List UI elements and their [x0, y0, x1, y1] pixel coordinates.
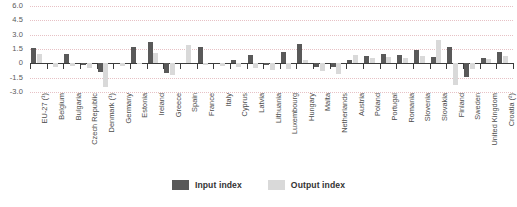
- x-axis-label: France: [208, 93, 216, 171]
- x-axis-label: Estonia: [141, 93, 149, 171]
- bar-input-index: [164, 63, 169, 73]
- bar-output-index: [137, 63, 142, 64]
- bar-output-index: [370, 58, 375, 64]
- bar-output-index: [436, 40, 441, 63]
- bar-input-index: [297, 44, 302, 63]
- bar-output-index: [53, 63, 58, 67]
- x-axis-tick-mark: [130, 63, 131, 69]
- bar-input-index: [497, 52, 502, 63]
- x-axis-tick-mark: [280, 63, 281, 69]
- x-axis-label: Belgium: [58, 93, 66, 171]
- bar-group: [97, 6, 114, 92]
- x-axis-tick-mark: [180, 63, 181, 69]
- bar-output-index: [236, 63, 241, 67]
- bar-input-index: [314, 63, 319, 67]
- x-axis-label: Ireland: [158, 93, 166, 171]
- x-axis-tick-mark: [330, 63, 331, 69]
- x-axis-label: Bulgaria: [75, 93, 83, 171]
- bar-input-index: [264, 63, 269, 65]
- y-axis-tick-label: 6.0: [0, 2, 23, 10]
- x-axis-tick-mark: [113, 63, 114, 69]
- x-axis-label: Croatia (²): [508, 93, 516, 171]
- x-axis-tick-mark: [296, 63, 297, 69]
- bar-group: [396, 6, 413, 92]
- bar-group: [363, 6, 380, 92]
- bar-group: [346, 6, 363, 92]
- x-axis-tick-mark: [346, 63, 347, 69]
- bar-chart: 6.04.53.01.50-1.5-3.0 EU-27 (¹)BelgiumBu…: [0, 0, 517, 207]
- y-axis-tick-label: 1.5: [0, 45, 23, 53]
- bar-group: [30, 6, 47, 92]
- bar-group: [430, 6, 447, 92]
- bar-output-index: [336, 63, 341, 74]
- bar-output-index: [503, 56, 508, 64]
- x-axis-tick-mark: [47, 63, 48, 69]
- bar-input-index: [397, 55, 402, 64]
- bar-input-index: [464, 63, 469, 76]
- x-axis-label: Portugal: [391, 93, 399, 171]
- x-axis-tick-mark: [363, 63, 364, 69]
- bar-output-index: [186, 45, 191, 63]
- x-axis-label: Sweden: [474, 93, 482, 171]
- y-axis-tick-label: -3.0: [0, 88, 23, 96]
- x-axis-tick-mark: [147, 63, 148, 69]
- bar-group: [480, 6, 497, 92]
- x-axis-label: Latvia: [258, 93, 266, 171]
- bar-output-index: [303, 60, 308, 63]
- x-axis-label: Spain: [191, 93, 199, 171]
- bar-output-index: [386, 57, 391, 64]
- x-axis-tick-mark: [480, 63, 481, 69]
- bar-group: [63, 6, 80, 92]
- chart-legend: Input index Output index: [0, 180, 517, 190]
- x-axis-tick-mark: [513, 63, 514, 69]
- bar-input-index: [447, 47, 452, 63]
- bar-group: [496, 6, 513, 92]
- bar-group: [463, 6, 480, 92]
- x-axis-label: Slovakia: [441, 93, 449, 171]
- bar-group: [163, 6, 180, 92]
- bar-group: [147, 6, 164, 92]
- x-axis-tick-mark: [80, 63, 81, 69]
- x-axis-label: Hungary: [308, 93, 316, 171]
- bar-group: [113, 6, 130, 92]
- x-axis-label: Netherlands: [341, 93, 349, 171]
- legend-item-output: Output index: [268, 180, 345, 190]
- bar-group: [130, 6, 147, 92]
- x-axis-tick-mark: [413, 63, 414, 69]
- bar-output-index: [70, 63, 75, 66]
- bar-output-index: [220, 63, 225, 66]
- x-axis-label: Romania: [408, 93, 416, 171]
- bar-group: [380, 6, 397, 92]
- bar-input-index: [98, 63, 103, 72]
- x-axis-label: Finland: [458, 93, 466, 171]
- x-axis-label: Malta: [324, 93, 332, 171]
- legend-swatch-input-icon: [172, 180, 189, 190]
- bar-input-index: [248, 55, 253, 64]
- bar-output-index: [87, 63, 92, 68]
- x-axis-tick-mark: [197, 63, 198, 69]
- x-axis-label: Germany: [125, 93, 133, 171]
- x-axis-label: Slovenia: [424, 93, 432, 171]
- bar-output-index: [320, 63, 325, 71]
- bar-input-index: [431, 57, 436, 64]
- x-axis-tick-mark: [97, 63, 98, 69]
- x-axis-label: Italy: [225, 93, 233, 171]
- bar-group: [280, 6, 297, 92]
- bar-output-index: [453, 63, 458, 85]
- y-axis-tick-label: 0: [0, 59, 23, 67]
- x-axis-label: Cyprus: [241, 93, 249, 171]
- x-axis-tick-mark: [263, 63, 264, 69]
- bar-input-index: [481, 58, 486, 64]
- x-axis-labels: EU-27 (¹)BelgiumBulgariaCzech RepublicDe…: [30, 93, 513, 171]
- bar-group: [330, 6, 347, 92]
- bar-input-index: [81, 63, 86, 65]
- x-axis-tick-mark: [213, 63, 214, 69]
- x-axis-tick-mark: [313, 63, 314, 69]
- x-axis-tick-mark: [380, 63, 381, 69]
- x-axis-label: Lithuania: [275, 93, 283, 171]
- y-axis-tick-label: -1.5: [0, 74, 23, 82]
- bar-input-index: [381, 54, 386, 64]
- bar-group: [230, 6, 247, 92]
- bar-output-index: [253, 63, 258, 68]
- bar-input-index: [148, 42, 153, 63]
